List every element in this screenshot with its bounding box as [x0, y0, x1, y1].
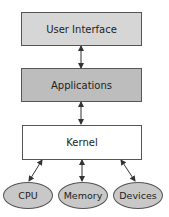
node-label: Memory [64, 190, 103, 201]
applications-layer: Applications [21, 68, 142, 102]
kernel-layer: Kernel [22, 125, 142, 160]
memory-node: Memory [58, 182, 108, 209]
node-label: CPU [18, 190, 37, 201]
layer-label: Applications [51, 80, 112, 91]
node-label: Devices [119, 190, 156, 201]
cpu-node: CPU [3, 182, 53, 209]
layer-label: User Interface [46, 24, 117, 35]
devices-node: Devices [113, 182, 163, 209]
layer-label: Kernel [66, 137, 97, 148]
user-interface-layer: User Interface [21, 12, 142, 46]
